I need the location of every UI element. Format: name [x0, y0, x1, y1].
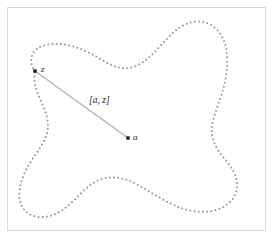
point-z-label: z: [41, 65, 45, 74]
segment-interval-label: [a, z]: [89, 96, 110, 106]
point-a-marker: [126, 136, 129, 139]
figure-root: z a [a, z]: [0, 0, 275, 242]
segment-a-z-line: [35, 71, 128, 138]
point-a-label: a: [133, 133, 138, 142]
point-z-marker: [33, 69, 36, 72]
figure-canvas: [0, 0, 275, 242]
star-region-boundary-dotted-path: [19, 22, 237, 218]
